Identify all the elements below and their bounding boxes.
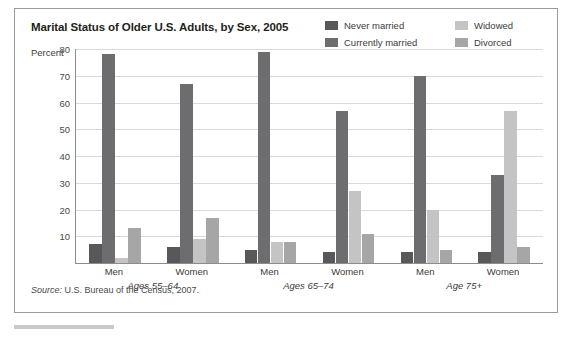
legend-swatch-currently-married [325,38,338,47]
bar-divorced-1 [206,218,219,263]
x-group-label-1: Ages 65–74 [283,280,334,291]
legend-label-divorced: Divorced [474,37,512,48]
bar-currently-married-1 [180,84,193,263]
bar-currently-married-3 [336,111,349,263]
x-group-label-2: Age 75+ [446,280,482,291]
chart-figure: Marital Status of Older U.S. Adults, by … [14,8,558,313]
bar-divorced-2 [284,242,297,263]
bar-divorced-4 [440,250,453,263]
bar-never-married-0 [89,244,102,263]
source-text: U.S. Bureau of the Census, 2007. [62,285,199,295]
legend-label-never-married: Never married [344,20,404,31]
legend-item-widowed: Widowed [455,20,550,31]
x-label-men-0: Men [105,266,123,277]
y-tick-label-70: 70 [48,70,70,81]
y-axis-tick-labels: 1020304050607080 [46,49,70,264]
y-tick-label-10: 10 [48,231,70,242]
y-tick-label-30: 30 [48,177,70,188]
bar-never-married-4 [401,252,414,263]
bar-widowed-2 [271,242,284,263]
bar-widowed-0 [115,258,128,263]
y-tick-label-50: 50 [48,124,70,135]
y-tick-label-20: 20 [48,204,70,215]
bars-layer [76,49,543,263]
bar-never-married-5 [478,252,491,263]
x-label-women-1: Women [175,266,208,277]
legend-item-divorced: Divorced [455,37,550,48]
footer-rule [14,325,114,329]
bar-divorced-0 [128,228,141,263]
y-tick-label-40: 40 [48,151,70,162]
bar-divorced-5 [517,247,530,263]
legend-item-never-married: Never married [325,20,455,31]
bar-never-married-3 [323,252,336,263]
legend-label-widowed: Widowed [474,20,513,31]
bar-currently-married-4 [414,76,427,263]
legend-item-currently-married: Currently married [325,37,455,48]
bar-widowed-3 [349,191,362,263]
bar-widowed-4 [427,210,440,264]
x-label-men-2: Men [260,266,278,277]
bar-currently-married-5 [491,175,504,263]
y-tick-label-60: 60 [48,97,70,108]
chart-legend: Never married Widowed Currently married … [325,17,550,51]
x-label-men-4: Men [416,266,434,277]
y-tick-label-80: 80 [48,44,70,55]
legend-swatch-divorced [455,38,468,47]
plot-area [75,49,543,264]
legend-swatch-never-married [325,21,338,30]
bar-never-married-1 [167,247,180,263]
chart-title: Marital Status of Older U.S. Adults, by … [31,21,288,33]
bar-divorced-3 [362,234,375,263]
x-label-women-5: Women [487,266,520,277]
source-prefix: Source: [31,285,62,295]
bar-widowed-5 [504,111,517,263]
source-note: Source: U.S. Bureau of the Census, 2007. [31,285,199,295]
legend-swatch-widowed [455,21,468,30]
bar-currently-married-2 [258,52,271,263]
bar-currently-married-0 [102,54,115,263]
bar-widowed-1 [193,239,206,263]
x-axis-line [75,263,543,264]
bar-never-married-2 [245,250,258,263]
legend-label-currently-married: Currently married [344,37,417,48]
x-label-women-3: Women [331,266,364,277]
